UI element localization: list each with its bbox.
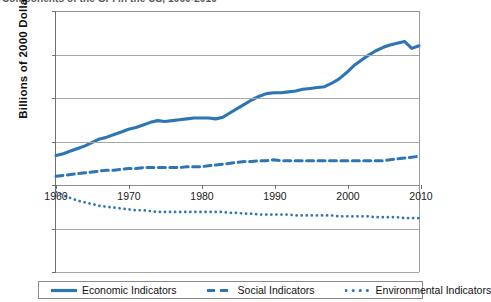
legend-item-environmental-indicators[interactable]: Environmental Indicators — [345, 285, 491, 296]
x-tick-mark — [202, 185, 203, 189]
legend-item-social-indicators[interactable]: Social Indicators — [207, 285, 315, 296]
legend-swatch-dashed-icon — [207, 285, 233, 296]
chart-title-clipped: Components of the GPI in the US, 1960-20… — [0, 0, 434, 4]
y-tick-mark — [52, 272, 56, 273]
x-tick-label: 1990 — [252, 191, 298, 202]
x-tick-label: 1960 — [33, 191, 79, 202]
y-axis-title: Billions of 2000 Dollars — [17, 0, 31, 133]
legend-label-social-indicators: Social Indicators — [238, 285, 315, 296]
x-tick-label: 1980 — [179, 191, 225, 202]
plot-area: 200150100500-50-100196019701980199020002… — [55, 11, 420, 272]
x-tick-label: 2010 — [398, 191, 444, 202]
legend-label-economic-indicators: Economic Indicators — [82, 285, 177, 296]
y-gridline — [56, 55, 419, 56]
y-tick-mark — [52, 229, 56, 230]
y-gridline — [56, 11, 419, 12]
legend-swatch-dotted-icon — [345, 285, 371, 296]
y-gridline — [56, 185, 419, 186]
x-tick-mark — [129, 185, 130, 189]
legend-item-economic-indicators[interactable]: Economic Indicators — [51, 285, 177, 296]
chart-legend: Economic Indicators Social Indicators En… — [38, 281, 423, 299]
y-gridline — [56, 229, 419, 230]
legend-swatch-solid-icon — [51, 285, 77, 296]
x-tick-mark — [421, 185, 422, 189]
x-tick-label: 1970 — [106, 191, 152, 202]
x-tick-label: 2000 — [325, 191, 371, 202]
y-gridline — [56, 142, 419, 143]
x-tick-mark — [56, 185, 57, 189]
y-gridline — [56, 272, 419, 273]
y-tick-mark — [52, 55, 56, 56]
x-tick-mark — [348, 185, 349, 189]
y-tick-mark — [52, 11, 56, 12]
y-tick-mark — [52, 98, 56, 99]
chart-title-text: Components of the GPI in the US, 1960-20… — [0, 0, 434, 4]
y-tick-mark — [52, 142, 56, 143]
y-gridline — [56, 98, 419, 99]
legend-label-environmental-indicators: Environmental Indicators — [376, 285, 491, 296]
series-line-social-indicators — [56, 156, 419, 176]
x-tick-mark — [275, 185, 276, 189]
